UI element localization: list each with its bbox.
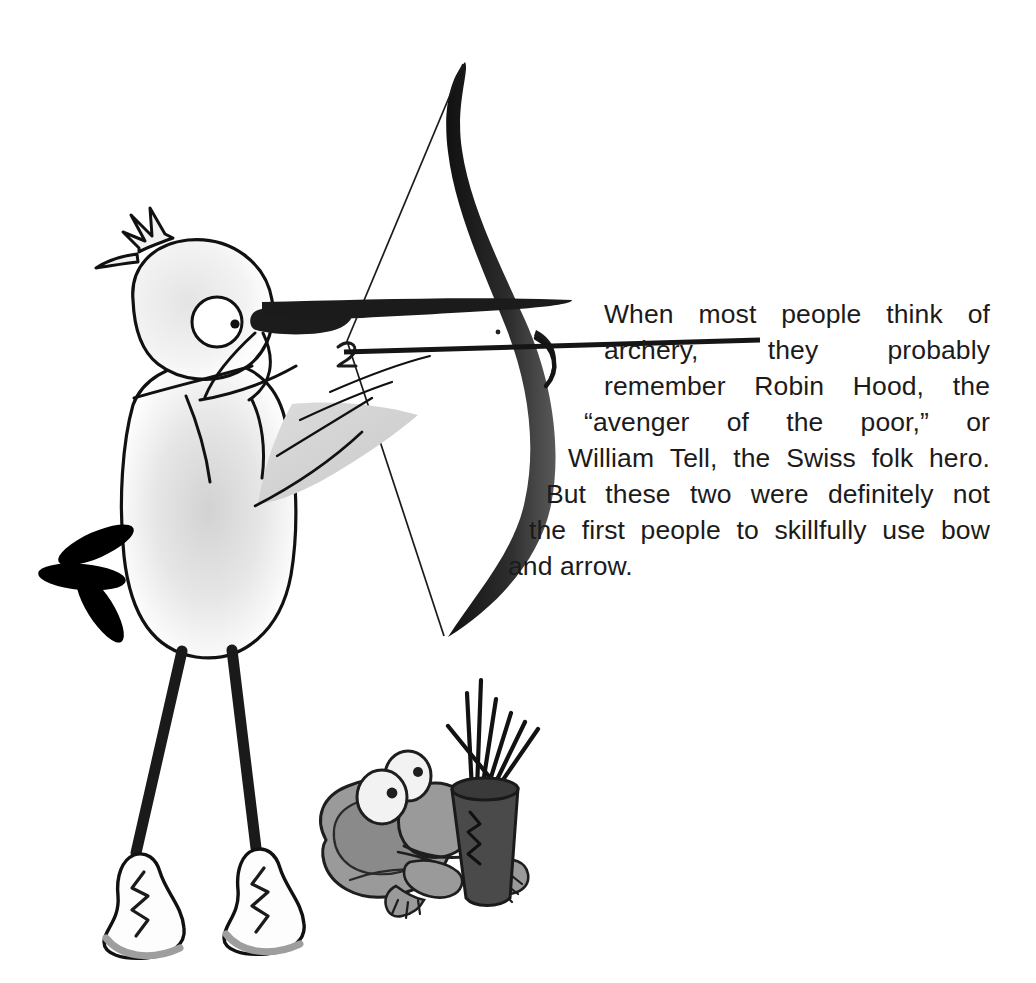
bird-body <box>121 360 295 657</box>
quiver-mouth <box>452 778 518 800</box>
arrow-detail-dot <box>496 330 501 335</box>
illustration-canvas <box>0 0 1036 983</box>
illustration-page: Whenmostpeoplethinkof archery,theyprobab… <box>0 0 1036 983</box>
frog-pupil-front <box>387 788 398 799</box>
frog-eye-front <box>357 770 407 824</box>
bird-eye <box>192 297 242 347</box>
frog-pupil-back <box>413 767 423 777</box>
bird-pupil <box>230 319 239 328</box>
